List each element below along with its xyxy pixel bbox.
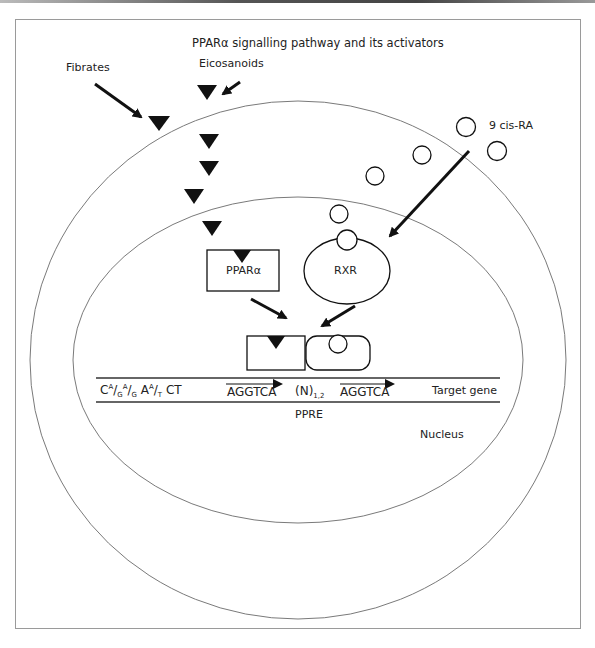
eicosanoids-label: Eicosanoids [199, 57, 264, 70]
retinoid-ligand-icon [366, 167, 384, 185]
seq-sub: G [117, 391, 122, 399]
ppre-label: PPRE [295, 408, 323, 421]
eicosanoids-arrow [223, 82, 240, 94]
pathway-diagram [0, 0, 595, 648]
retinoid-ligand-icon [488, 142, 507, 161]
spacer-label: (N)1,2 [295, 384, 324, 400]
ligand-triangle-icon [184, 189, 204, 204]
seq-sup: A [149, 383, 154, 391]
consensus-sequence: CA/GA/G AA/T CT [100, 383, 182, 399]
retinoid-label: 9 cis-RA [489, 119, 533, 132]
ppar-to-complex-arrow [251, 299, 286, 318]
ligand-triangle-icon [202, 221, 222, 236]
rxr-to-complex-arrow [322, 306, 355, 326]
spacer-text: (N) [295, 384, 313, 398]
retinoid-ligand-icon [330, 205, 348, 223]
ligand-triangle-icon [199, 161, 219, 176]
half-site-2-label: AGGTCA [340, 385, 389, 399]
seq-sup: A [123, 383, 128, 391]
seq-sub: G [132, 391, 137, 399]
seq-ct: CT [166, 383, 182, 397]
eicosanoid-ligand-icon [197, 85, 217, 100]
seq-a: A [141, 383, 149, 397]
retinoid-ligand-icon [457, 118, 476, 137]
retinoid-ligand-icon [413, 146, 431, 164]
complex-rxr-ligand-icon [329, 335, 347, 353]
fibrate-ligand-icon [148, 116, 170, 131]
spacer-sub: 1,2 [313, 392, 324, 400]
retinoid-arrow [390, 151, 469, 236]
half-site-1-label: AGGTCA [227, 385, 276, 399]
figure-title: PPARα signalling pathway and its activat… [192, 36, 444, 50]
ligand-triangle-icon [199, 134, 219, 149]
ppar-alpha-label: PPARα [226, 264, 261, 277]
seq-sub: T [158, 391, 162, 399]
nucleus-label: Nucleus [420, 428, 464, 441]
fibrates-arrow [95, 84, 141, 117]
rxr-bound-ligand-icon [337, 230, 357, 250]
seq-sup: A [108, 383, 113, 391]
rxr-label: RXR [334, 264, 357, 277]
target-gene-label: Target gene [432, 384, 497, 397]
fibrates-label: Fibrates [66, 61, 110, 74]
